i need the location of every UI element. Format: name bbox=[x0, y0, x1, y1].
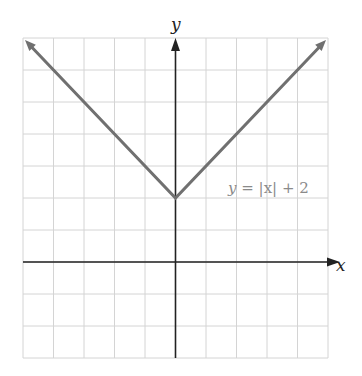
graph-canvas: x y y = |x| + 2 bbox=[0, 0, 362, 376]
y-axis-label: y bbox=[170, 14, 181, 34]
equation-suffix: + 2 bbox=[277, 179, 309, 197]
x-axis-label: x bbox=[336, 255, 346, 275]
equation-abs: |x| bbox=[259, 179, 278, 197]
equation-label: y = |x| + 2 bbox=[227, 179, 309, 197]
equation-prefix: y = bbox=[227, 179, 259, 197]
y-axis-arrow-icon bbox=[171, 38, 180, 51]
